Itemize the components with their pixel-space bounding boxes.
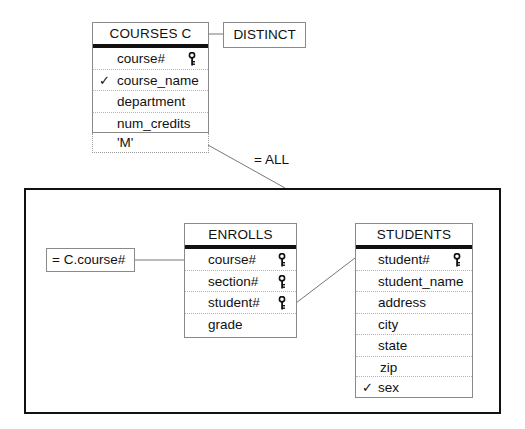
column-label: zip [380,357,397,378]
key-icon [453,253,461,267]
checkmark-icon: ✓ [362,377,373,398]
key-icon [278,275,286,289]
condition-cell-m[interactable]: 'M' [92,133,209,153]
column-label: course_name [117,70,199,91]
checkmark-icon: ✓ [99,70,110,91]
courses-row-course-num[interactable]: course# [93,48,208,70]
students-row-zip[interactable]: zip [356,357,472,378]
enrolls-table-header: ENROLLS [185,224,296,249]
column-label: course# [117,48,165,69]
column-label: grade [208,314,243,335]
column-label: department [117,91,185,112]
column-label: student# [208,292,260,313]
distinct-modifier-box[interactable]: DISTINCT [223,22,306,48]
column-label: state [378,335,407,356]
column-label: section# [208,271,258,292]
course-condition-box[interactable]: = C.course# [46,248,135,272]
key-icon [188,52,196,66]
students-table-header: STUDENTS [356,224,472,249]
enrolls-row-grade[interactable]: grade [185,314,296,336]
column-label: student# [378,249,430,270]
enrolls-row-course-num[interactable]: course# [185,249,296,271]
students-row-address[interactable]: address [356,292,472,314]
students-row-sex[interactable]: ✓ sex [356,377,472,397]
students-row-student-num[interactable]: student# [356,249,472,271]
all-comparison-label: = ALL [254,152,289,167]
column-label: student_name [378,271,464,292]
column-label: sex [378,377,399,398]
column-label: course# [208,249,256,270]
key-icon [278,296,286,310]
courses-table-header: COURSES C [93,23,208,48]
courses-row-num-credits[interactable]: num_credits [93,113,208,135]
key-icon [278,253,286,267]
enrolls-table[interactable]: ENROLLS course# section# student# grade [184,223,297,338]
students-table[interactable]: STUDENTS student# student_name address c… [355,223,473,398]
courses-row-course-name[interactable]: ✓ course_name [93,70,208,92]
courses-table[interactable]: COURSES C course# ✓ course_name departme… [92,22,209,133]
column-label: city [378,314,398,335]
column-label: address [378,292,426,313]
students-row-city[interactable]: city [356,314,472,336]
enrolls-row-section-num[interactable]: section# [185,271,296,293]
condition-value: 'M' [117,133,133,152]
students-row-state[interactable]: state [356,335,472,357]
students-row-student-name[interactable]: student_name [356,271,472,293]
column-label: num_credits [117,113,191,134]
courses-row-department[interactable]: department [93,91,208,113]
enrolls-row-student-num[interactable]: student# [185,292,296,314]
